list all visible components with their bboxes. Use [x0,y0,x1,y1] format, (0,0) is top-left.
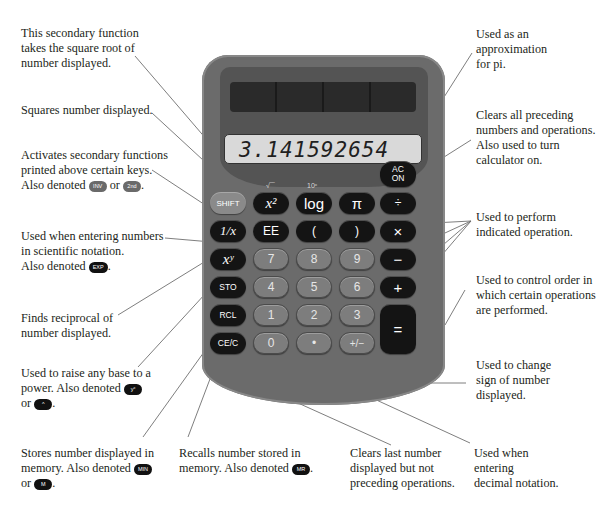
divide-key[interactable]: ÷ [380,192,416,214]
reciprocal-key[interactable]: 1/x [210,220,246,242]
annotation-line: Also used to turn [476,138,595,153]
annotation-line: which certain operations [476,288,596,303]
close-paren-key[interactable]: ) [339,220,375,242]
zero-key[interactable]: 0 [253,332,289,354]
yx-key-icon: yˣ [124,384,142,395]
annotation-rcl: Recalls number stored in memory. Also de… [179,446,313,476]
log-key[interactable]: log [296,192,332,214]
annotation-sign: Used to change sign of number displayed. [476,358,551,403]
annotation-ac-on: Clears all preceding numbers and operati… [476,108,595,168]
calculator: 3.141592654 √‾‾ 10ˣ AC ON SHIFT x² log π… [202,55,445,405]
annotation-line: decimal notation. [474,476,559,491]
annotation-line: Recalls number stored in [179,446,313,461]
solar-cell [277,82,324,112]
annotation-parentheses: Used to control order in which certain o… [476,273,596,318]
equals-key[interactable]: = [380,304,416,354]
shift-key[interactable]: SHIFT [210,192,246,214]
period: . [141,178,144,192]
period: . [52,396,55,410]
open-paren-key[interactable]: ( [296,220,332,242]
two-key[interactable]: 2 [296,304,332,326]
six-key[interactable]: 6 [339,276,375,298]
also-denoted-text: memory. Also denoted [179,461,289,475]
power-key[interactable]: xʸ [210,248,246,270]
minus-key[interactable]: − [380,248,416,270]
inv-key-icon: INV [89,181,107,192]
plus-key[interactable]: + [380,276,416,298]
one-key[interactable]: 1 [253,304,289,326]
annotation-line: Also denoted EXP. [21,259,164,274]
or-text: or [21,476,31,490]
lcd-display: 3.141592654 [224,134,422,164]
annotation-ce-c: Clears last number displayed but not pre… [350,446,455,491]
annotation-line: Also denoted INV or 2nd. [21,178,168,193]
sign-key[interactable]: +/− [339,332,375,354]
or-text: or [110,178,120,192]
ee-key[interactable]: EE [253,220,289,242]
annotation-square: Squares number displayed. [21,103,153,118]
mr-key-icon: MR [292,464,310,475]
annotation-pi: Used as an approximation for pi. [476,27,547,72]
annotation-line: power. Also denoted yˣ [21,381,151,396]
seven-key[interactable]: 7 [253,248,289,270]
three-key[interactable]: 3 [339,304,375,326]
pi-key[interactable]: π [339,192,375,214]
eight-key[interactable]: 8 [296,248,332,270]
multiply-key[interactable]: × [380,220,416,242]
five-key[interactable]: 5 [296,276,332,298]
annotation-line: approximation [476,42,547,57]
annotation-line: Used as an [476,27,547,42]
also-denoted-text: Also denoted [21,178,86,192]
annotation-line: in scientific notation. [21,244,164,259]
solar-cell [230,82,277,112]
annotation-line: or M. [21,476,154,491]
rcl-key[interactable]: RCL [210,304,246,326]
solar-panel [230,82,416,112]
sto-key[interactable]: STO [210,276,246,298]
square-key[interactable]: x² [253,192,289,214]
exp-key-icon: EXP [89,262,108,273]
annotation-line: Clears all preceding [476,108,595,123]
annotation-line: number displayed. [21,56,139,71]
also-denoted-text: Also denoted [21,259,86,273]
annotation-line: Used to change [476,358,551,373]
decimal-key[interactable]: • [296,332,332,354]
annotation-ee: Used when entering numbers in scientific… [21,229,164,274]
annotation-line: This secondary function [21,26,139,41]
annotation-shift: Activates secondary functions printed ab… [21,148,168,193]
annotation-line: memory. Also denoted MR. [179,461,313,476]
ce-c-key[interactable]: CE/C [210,332,246,354]
annotation-line: displayed but not [350,461,455,476]
solar-cell [371,82,416,112]
four-key[interactable]: 4 [253,276,289,298]
m-key-icon: M [34,479,52,490]
annotation-line: sign of number [476,373,551,388]
annotation-line: Clears last number [350,446,455,461]
annotation-line: are performed. [476,303,596,318]
period: . [310,461,313,475]
annotation-line: displayed. [476,388,551,403]
annotation-line: Used to perform [476,210,573,225]
annotation-line: Used when [474,446,559,461]
on-label: ON [392,174,405,183]
annotation-line: indicated operation. [476,225,573,240]
annotation-line: Used to control order in [476,273,596,288]
sqrt-secondary-label: √‾‾ [266,182,275,189]
annotation-line: or ^. [21,396,151,411]
annotation-line: Finds reciprocal of [21,311,113,326]
annotation-line: Squares number displayed. [21,103,153,118]
nine-key[interactable]: 9 [339,248,375,270]
10x-secondary-label: 10ˣ [307,182,317,189]
annotation-line: number displayed. [21,326,113,341]
period: . [108,259,111,273]
annotation-line: numbers and operations. [476,123,595,138]
period: . [52,476,55,490]
solar-cell [324,82,371,112]
ac-on-key[interactable]: AC ON [380,161,416,187]
annotation-line: entering [474,461,559,476]
annotation-line: preceding operations. [350,476,455,491]
annotation-line: takes the square root of [21,41,139,56]
annotation-power: Used to raise any base to a power. Also … [21,366,151,411]
annotation-line: for pi. [476,57,547,72]
annotation-line: Used when entering numbers [21,229,164,244]
